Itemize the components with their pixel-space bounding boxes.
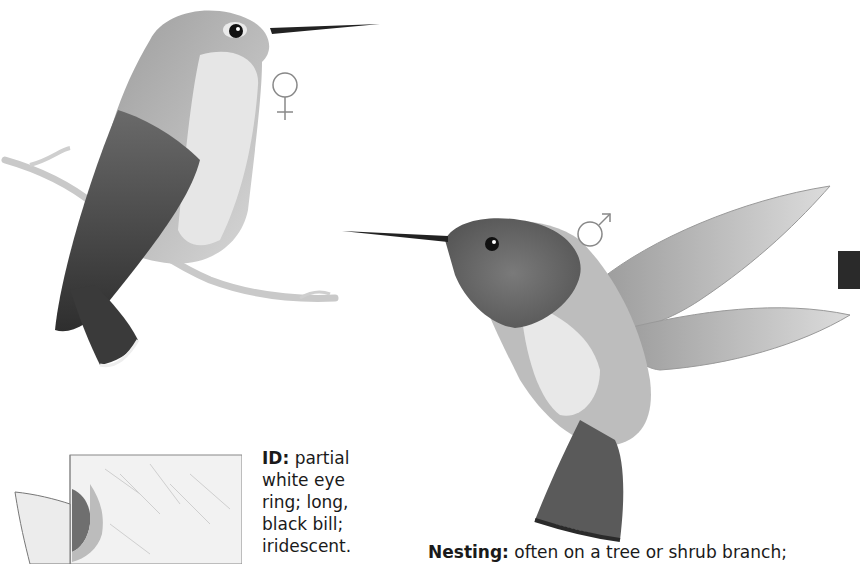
id-line: black bill; bbox=[262, 514, 343, 534]
id-line: ring; long, bbox=[262, 492, 349, 512]
id-label: ID: bbox=[262, 448, 289, 468]
nesting-text: often on a tree or shrub branch; bbox=[514, 542, 787, 562]
range-map bbox=[10, 454, 242, 564]
nesting-label: Nesting: bbox=[428, 542, 509, 562]
female-hummingbird bbox=[55, 10, 380, 365]
nesting-description: Nesting: often on a tree or shrub branch… bbox=[428, 541, 860, 563]
id-description: ID: partial white eye ring; long, black … bbox=[262, 447, 362, 557]
male-symbol-icon bbox=[574, 210, 614, 250]
section-thumb-tab bbox=[838, 251, 860, 289]
id-line: partial bbox=[295, 448, 350, 468]
id-line: white eye bbox=[262, 470, 345, 490]
female-symbol-icon bbox=[268, 70, 306, 122]
id-line: iridescent. bbox=[262, 536, 351, 556]
